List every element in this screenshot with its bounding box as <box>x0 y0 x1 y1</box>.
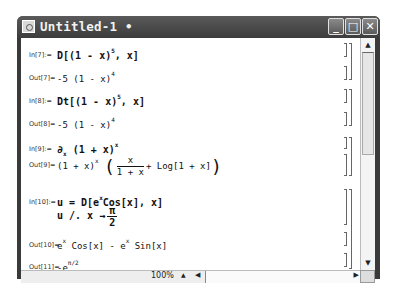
numerator: π <box>107 205 117 217</box>
expr-text: -5 (1 - x) <box>57 120 111 130</box>
group-bracket[interactable] <box>349 137 352 176</box>
paren-close: ) <box>211 156 222 177</box>
mathematica-icon <box>22 20 35 33</box>
cell-bracket[interactable] <box>344 189 347 225</box>
input-cell-8[interactable]: In[8]:=Dt[(1 - x)5, x] <box>29 90 145 109</box>
cell-bracket[interactable] <box>344 89 347 103</box>
cell-bracket[interactable] <box>344 137 347 149</box>
numerator: x <box>117 155 144 167</box>
zoom-level[interactable]: 100% <box>151 271 174 280</box>
input-cell-7[interactable]: In[7]:=D[(1 - x)5, x] <box>29 44 139 63</box>
cell-label: Out[9]= <box>29 161 57 169</box>
expr-text: Sin[x] <box>129 241 167 251</box>
fraction: x1 + x <box>117 155 144 178</box>
horizontal-scrollbar[interactable]: ▶ <box>205 271 361 283</box>
scroll-thumb[interactable] <box>362 52 374 155</box>
expr-text: Cos[x] - e <box>66 241 126 251</box>
exponent: 4 <box>111 70 115 77</box>
paren-open: ( <box>104 156 115 177</box>
scroll-up-arrow-icon[interactable]: ▲ <box>362 39 374 51</box>
expr-text: u /. x → <box>57 210 105 221</box>
expr-text: , x] <box>115 50 139 61</box>
cell-bracket[interactable] <box>344 66 347 80</box>
cell-bracket[interactable] <box>344 43 347 57</box>
group-bracket[interactable] <box>349 89 352 126</box>
cell-label: In[9]:= <box>29 145 57 153</box>
fraction: π2 <box>107 205 117 228</box>
status-bar: 100% ▲ ◀ ▶ <box>21 270 360 283</box>
cell-bracket[interactable] <box>344 154 347 176</box>
zoom-menu-arrow-icon[interactable]: ▲ <box>181 271 186 278</box>
denominator: 2 <box>107 217 117 228</box>
notebook-window: Untitled-1 • _ □ ✕ In[7]:=D[(1 - x)5, x]… <box>17 16 380 279</box>
expr-text: Dt[(1 - x) <box>57 96 117 107</box>
expr-text: (1 + x) <box>57 161 95 171</box>
cell-label: Out[8]= <box>29 120 57 128</box>
input-cell-10-line2[interactable]: u /. x →π2 <box>57 204 119 228</box>
notebook-content[interactable]: In[7]:=D[(1 - x)5, x] Out[7]=-5 (1 - x)4… <box>21 38 360 270</box>
cell-bracket[interactable] <box>344 253 347 267</box>
expr-text: , x] <box>121 96 145 107</box>
output-cell-7[interactable]: Out[7]=-5 (1 - x)4 <box>29 67 115 86</box>
expr-text: -5 (1 - x) <box>57 74 111 84</box>
cell-label: Out[7]= <box>29 74 57 82</box>
scroll-right-arrow-icon[interactable]: ▶ <box>354 271 359 279</box>
minimize-button[interactable]: _ <box>328 18 344 35</box>
close-button[interactable]: ✕ <box>362 18 378 35</box>
title-bar[interactable]: Untitled-1 • _ □ ✕ <box>17 16 380 38</box>
denominator: 1 + x <box>117 167 144 178</box>
cell-label: Out[10]= <box>29 241 57 249</box>
exponent: x <box>115 141 119 148</box>
expr-text: D[(1 - x) <box>57 50 111 61</box>
output-cell-10[interactable]: Out[10]=ex Cos[x] - ex Sin[x] <box>29 234 167 253</box>
cell-label: In[8]:= <box>29 97 57 105</box>
expr-text: + Log[1 + x] <box>146 161 211 171</box>
window-title: Untitled-1 • <box>40 19 133 34</box>
cell-label: In[10]:= <box>29 198 57 206</box>
group-bracket[interactable] <box>349 43 352 80</box>
scroll-down-arrow-icon[interactable]: ▼ <box>362 257 374 269</box>
output-cell-9[interactable]: Out[9]=(1 + x)x (x1 + x+ Log[1 + x]) <box>29 154 222 178</box>
maximize-button[interactable]: □ <box>345 18 361 35</box>
group-bracket[interactable] <box>349 189 352 269</box>
exponent: 4 <box>111 116 115 123</box>
exponent: x <box>95 157 99 164</box>
exponent: π/2 <box>68 259 79 266</box>
cell-bracket[interactable] <box>344 232 347 246</box>
cell-label: In[7]:= <box>29 51 57 59</box>
vertical-scrollbar[interactable]: ▲ ▼ <box>360 38 375 270</box>
scroll-left-arrow-icon[interactable]: ◀ <box>195 271 200 279</box>
resize-grip[interactable] <box>360 270 375 283</box>
output-cell-8[interactable]: Out[8]=-5 (1 - x)4 <box>29 113 115 132</box>
cell-bracket[interactable] <box>344 112 347 126</box>
